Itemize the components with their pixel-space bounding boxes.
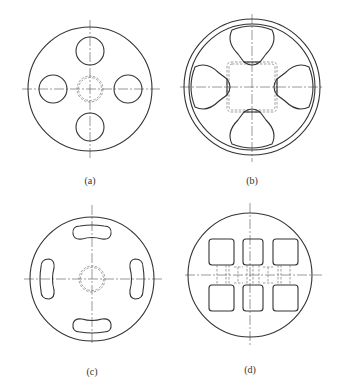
panel-label-b: (b)	[246, 175, 258, 186]
pocket-top-center	[243, 239, 263, 265]
pocket-top-left	[209, 239, 234, 265]
panel-a-drawing	[22, 20, 162, 158]
pocket-bottom-right	[273, 285, 298, 311]
pocket-bottom-left	[209, 285, 234, 311]
panel-d-drawing	[185, 203, 322, 345]
panel-label-a: (a)	[84, 175, 95, 186]
mechanical-drawings	[0, 0, 341, 380]
panel-b-drawing	[180, 14, 324, 162]
pocket-bottom-center	[243, 285, 263, 311]
panel-c-drawing	[24, 205, 163, 345]
panel-label-d: (d)	[244, 364, 256, 375]
pocket-top-right	[273, 239, 298, 265]
panel-label-c: (c)	[86, 366, 97, 377]
